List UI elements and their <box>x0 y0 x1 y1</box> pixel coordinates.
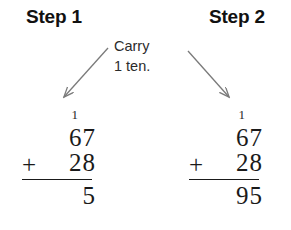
arrow-down-left-icon <box>64 48 108 97</box>
step-1-addend-1-row: 67 <box>12 125 118 150</box>
step-1-carry-row: 1 <box>12 108 118 125</box>
step-1-addend-2-row: + 28 <box>12 150 118 178</box>
step-2-carry-digit: 1 <box>239 108 246 121</box>
step-2-calculation: 1 67 + 28 95 <box>179 108 285 210</box>
step-2-carry-row: 1 <box>179 108 285 125</box>
step-1-addend-1: 67 <box>69 125 96 150</box>
addition-carry-diagram: Step 1 Step 2 Carry 1 ten. 1 67 + 28 5 <box>0 0 291 230</box>
step-2-addend-2: 28 <box>236 150 263 175</box>
arrow-down-right-icon <box>188 51 229 97</box>
step-1-addend-2: 28 <box>69 150 96 175</box>
step-1-total-row: 5 <box>12 180 118 210</box>
step-2-total: 95 <box>236 182 263 209</box>
step-2-addend-1: 67 <box>236 125 263 150</box>
step-2-addend-1-row: 67 <box>179 125 285 150</box>
step-1-total: 5 <box>83 182 97 209</box>
step-2-plus-sign: + <box>189 152 203 177</box>
step-1-plus-sign: + <box>22 152 36 177</box>
step-2-total-row: 95 <box>179 180 285 210</box>
step-1-carry-digit: 1 <box>72 108 79 121</box>
step-1-calculation: 1 67 + 28 5 <box>12 108 118 210</box>
step-2-addend-2-row: + 28 <box>179 150 285 178</box>
